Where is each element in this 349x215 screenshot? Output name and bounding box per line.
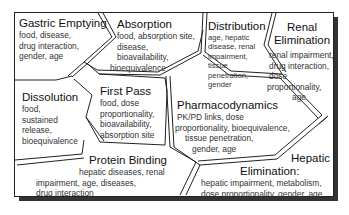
region-title: Absorption (117, 18, 195, 31)
region-desc-line: disease, (117, 42, 195, 53)
region-desc-line: disease, renal (208, 42, 266, 51)
region-pharmacodynamics: Pharmacodynamics PK/PD links, dose propo… (176, 99, 296, 154)
region-desc-line: impairment, (208, 52, 266, 61)
region-desc-line: PK/PD links, dose (177, 112, 296, 123)
region-desc-line: bioequivalence (22, 136, 78, 147)
region-title: First Pass (100, 85, 154, 98)
region-distribution: Distribution age, hepatic disease, renal… (208, 20, 266, 89)
region-desc-line: impairment, age, diseases, (36, 178, 167, 189)
region-desc-line: tissue (208, 61, 266, 70)
region-desc-line: food, absorption site, (117, 31, 195, 42)
region-desc-line: hepatic diseases, renal (79, 167, 167, 178)
region-desc-line: gender, age (19, 51, 107, 62)
region-desc-line: dose (269, 71, 332, 82)
region-absorption: Absorption food, absorption site, diseas… (116, 18, 195, 73)
region-desc-line: food, dose (100, 98, 154, 109)
region-desc-line: sustained (22, 115, 78, 126)
region-protein-binding: Protein Binding hepatic diseases, renal … (36, 154, 167, 199)
region-desc-line: hepatic impairment, metabolism, (201, 178, 330, 189)
region-title: Gastric Emptying (19, 17, 107, 30)
region-dissolution: Dissolution food, sustained release, bio… (22, 91, 78, 146)
region-desc-line: penetration, (208, 71, 266, 80)
region-hepatic-elimination: Hepatic Elimination: hepatic impairment,… (200, 152, 330, 199)
region-desc-line: food, (22, 104, 78, 115)
region-gastric-emptying: Gastric Emptying food, disease, drug int… (19, 17, 107, 62)
region-title-line: Elimination (272, 34, 332, 47)
region-title: Distribution (208, 20, 266, 33)
region-first-pass: First Pass food, dose proportionality, b… (100, 85, 154, 140)
region-title: Protein Binding (89, 154, 167, 167)
region-title-line: Renal (272, 21, 332, 34)
region-title-line: Hepatic (200, 152, 330, 165)
region-renal-elimination: Renal Elimination renal impairment, drug… (266, 21, 332, 103)
region-desc-line: food, disease, (19, 30, 107, 41)
region-desc-line: dose proportionality, gender, age (201, 189, 330, 200)
region-title-line: Elimination: (240, 165, 330, 178)
region-desc-line: absorption site (100, 130, 154, 141)
region-desc-line: drug interaction, (269, 61, 332, 72)
region-desc-line: proportionality, (267, 82, 332, 93)
region-desc-line: bioavailability, (100, 119, 154, 130)
region-desc-line: drug interaction, (19, 41, 107, 52)
region-desc-line: drug interaction (36, 188, 167, 199)
region-title: Pharmacodynamics (177, 99, 296, 112)
region-desc-line: proportionality, bioequivalence, (175, 123, 296, 134)
region-title: Dissolution (22, 91, 78, 104)
region-desc-line: tissue penetration, (185, 133, 296, 144)
region-desc-line: bioequivalence (110, 63, 195, 74)
region-desc-line: bioavailability, (117, 52, 195, 63)
region-desc-line: release, (22, 125, 78, 136)
region-desc-line: renal impairment, (269, 50, 332, 61)
region-desc-line: gender (208, 80, 266, 89)
region-desc-line: age, hepatic (208, 33, 266, 42)
region-desc-line: proportionality, (100, 109, 154, 120)
